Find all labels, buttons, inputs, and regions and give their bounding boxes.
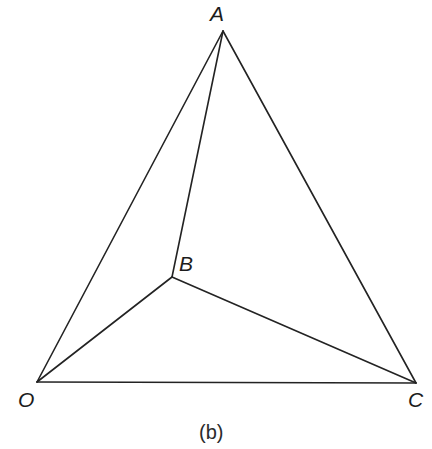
edge-BC: [172, 277, 416, 383]
edge-OA: [37, 31, 223, 382]
vertex-label-A: A: [210, 3, 224, 24]
vertex-label-O: O: [18, 389, 34, 410]
edge-OC: [37, 382, 416, 383]
figure-caption: (b): [199, 422, 223, 442]
edge-AB: [172, 31, 223, 277]
figure-container: A B O C (b): [0, 0, 432, 449]
vertex-label-B: B: [179, 253, 193, 274]
vertex-label-C: C: [408, 389, 423, 410]
edge-group: [37, 31, 416, 383]
edge-AC: [223, 31, 416, 383]
edge-OB: [37, 277, 172, 382]
tetrahedron-diagram: [0, 0, 432, 449]
